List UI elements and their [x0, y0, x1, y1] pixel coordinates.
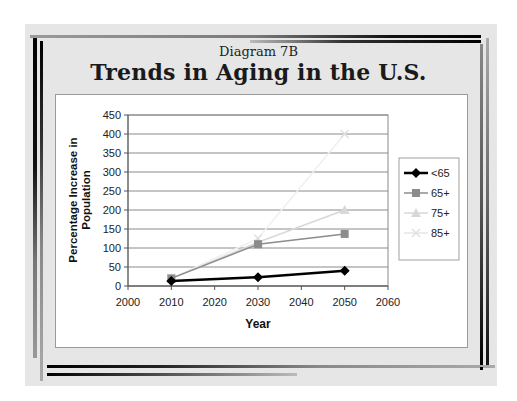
x-tick-label: 2050: [332, 296, 356, 308]
y-tick-label: 250: [103, 185, 121, 197]
gridlines: [128, 115, 388, 286]
x-tick-label: 2000: [116, 296, 140, 308]
x-tick-label: 2010: [159, 296, 183, 308]
y-axis-label-line1: Percentage Increase in: [67, 137, 79, 262]
legend-label: 65+: [431, 187, 450, 199]
y-tick-label: 200: [103, 204, 121, 216]
square-marker-icon: [254, 240, 262, 248]
x-tick-label: 2060: [376, 296, 400, 308]
square-marker-icon: [341, 230, 349, 238]
legend: <6565+75+85+: [399, 158, 459, 260]
y-tick-label: 350: [103, 147, 121, 159]
y-tick-label: 400: [103, 128, 121, 140]
series-line: [171, 134, 344, 278]
legend-label: <65: [431, 167, 450, 179]
y-tick-label: 450: [103, 109, 121, 121]
plot-frame: [128, 115, 388, 286]
diamond-marker-icon: [253, 272, 263, 282]
y-tick-label: 100: [103, 242, 121, 254]
square-marker-icon: [412, 189, 420, 197]
y-axis-label-line2: Population: [80, 170, 92, 229]
y-tick-label: 50: [109, 261, 121, 273]
y-tick-label: 300: [103, 166, 121, 178]
x-tick-label: 2030: [246, 296, 270, 308]
y-tick-label: 0: [115, 280, 121, 292]
legend-label: 75+: [431, 207, 450, 219]
y-tick-label: 150: [103, 223, 121, 235]
line-chart: 0501001502002503003504004502000201020202…: [0, 0, 517, 401]
x-axis-label: Year: [245, 317, 271, 331]
x-tick-label: 2020: [202, 296, 226, 308]
x-tick-label: 2040: [289, 296, 313, 308]
legend-label: 85+: [431, 227, 450, 239]
